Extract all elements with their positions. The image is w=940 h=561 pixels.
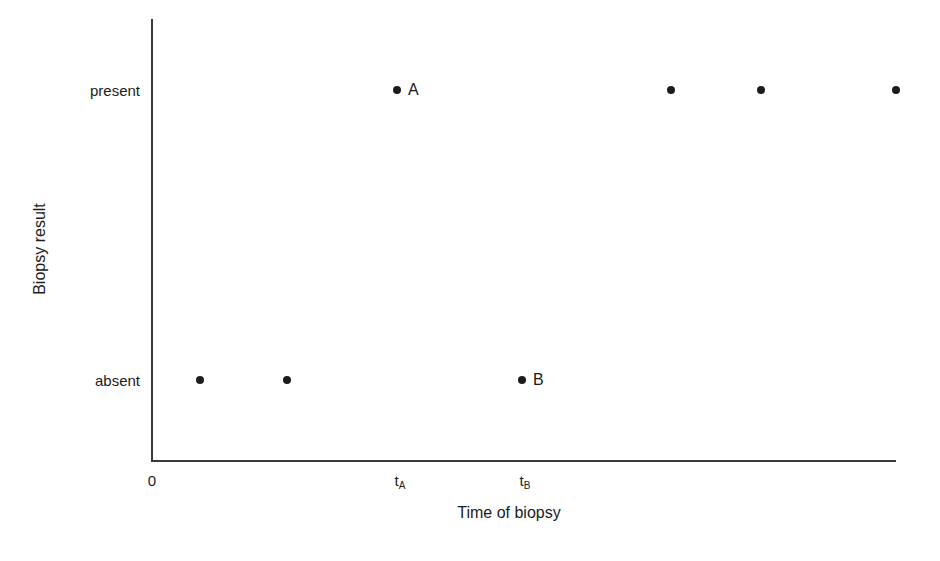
y-tick-label-present: present bbox=[0, 82, 140, 99]
data-point-marker bbox=[196, 376, 204, 384]
data-point-marker bbox=[518, 376, 526, 384]
x-tick-subscript: A bbox=[399, 480, 406, 491]
data-point-label-A: A bbox=[408, 81, 419, 99]
x-tick-label-0: 0 bbox=[148, 472, 156, 489]
x-tick-label-tB: tB bbox=[519, 472, 530, 489]
y-axis-line bbox=[151, 19, 153, 462]
y-axis-title: Biopsy result bbox=[31, 149, 49, 349]
data-point-marker bbox=[393, 86, 401, 94]
data-point-marker bbox=[757, 86, 765, 94]
data-point-marker bbox=[283, 376, 291, 384]
x-axis-line bbox=[151, 460, 896, 462]
biopsy-scatter-chart: Biopsy result Time of biopsy presentabse… bbox=[0, 0, 940, 561]
data-point-label-B: B bbox=[533, 371, 544, 389]
x-tick-base: 0 bbox=[148, 472, 156, 489]
y-tick-label-absent: absent bbox=[0, 372, 140, 389]
data-point-marker bbox=[892, 86, 900, 94]
x-tick-subscript: B bbox=[524, 480, 531, 491]
x-axis-title-text: Time of biopsy bbox=[457, 504, 560, 521]
data-point-marker bbox=[667, 86, 675, 94]
x-axis-title: Time of biopsy bbox=[0, 504, 940, 522]
x-tick-label-tA: tA bbox=[394, 472, 405, 489]
